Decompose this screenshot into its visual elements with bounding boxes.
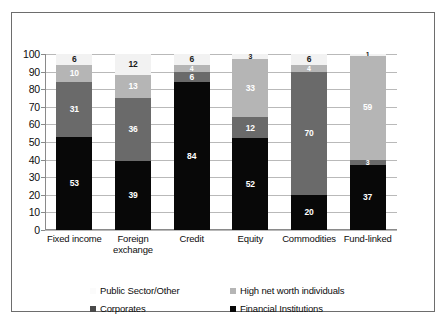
bar-segment[interactable]: 33 [232,59,268,117]
x-axis-labels: Fixed incomeForeign exchangeCreditEquity… [45,234,397,256]
y-axis-tick-label: 30 [29,171,40,183]
bar-segment-value: 6 [189,55,194,64]
bar-segment[interactable]: 84 [174,82,210,230]
y-axis-tick-label: 0 [34,224,40,236]
bar-segment[interactable]: 10 [56,65,92,83]
x-axis-label: Foreign exchange [104,234,163,256]
y-axis-tick-label: 80 [29,83,40,95]
x-axis-label: Credit [162,234,221,256]
gridline [45,230,397,231]
bar-segment[interactable]: 6 [174,54,210,65]
bar-segment-value: 13 [128,82,137,91]
bar-segment-value: 6 [72,55,77,64]
bar-segment[interactable]: 6 [174,72,210,83]
bar-segment-value: 36 [128,125,137,134]
bar-segment[interactable]: 20 [291,195,327,230]
legend-item[interactable]: Corporates [90,303,230,314]
bar-segment-value: 37 [363,193,372,202]
bar-segment[interactable]: 6 [56,54,92,65]
chart-legend: Public Sector/OtherHigh net worth indivi… [90,285,390,314]
bar-segment-value: 53 [70,179,79,188]
bar-segment[interactable]: 12 [232,117,268,138]
bar-segment-value: 31 [70,105,79,114]
y-axis-tick-label: 10 [29,206,40,218]
bar-series-container: 610315312133639646843331252647020159337 [45,54,397,230]
legend-label: High net worth individuals [240,285,344,296]
bar-segment-value: 12 [128,60,137,69]
bar-segment[interactable]: 52 [232,138,268,230]
bar-segment[interactable]: 70 [291,72,327,195]
bar-segment[interactable]: 39 [115,161,151,230]
bar-segment[interactable]: 12 [115,54,151,75]
y-axis-tick-mark [41,230,45,231]
x-axis-label: Fixed income [45,234,104,256]
y-axis-tick-label: 20 [29,189,40,201]
bar-group[interactable]: 12133639 [115,54,151,230]
legend-swatch-icon [230,306,236,312]
bar-segment-value: 6 [307,55,312,64]
bar-group[interactable]: 159337 [350,54,386,230]
bar-segment-value: 39 [128,191,137,200]
legend-swatch-icon [230,288,236,294]
bar-group[interactable]: 647020 [291,54,327,230]
bar-segment-value: 4 [307,65,311,72]
bar-segment[interactable]: 59 [350,56,386,160]
bar-segment[interactable]: 53 [56,137,92,230]
y-axis-tick-label: 90 [29,66,40,78]
plot-area: 0102030405060708090100 61031531213363964… [45,54,397,230]
chart-frame: 0102030405060708090100 61031531213363964… [11,12,435,312]
y-axis-tick-label: 60 [29,118,40,130]
y-axis-tick-label: 100 [23,48,40,60]
bar-segment-value: 52 [246,180,255,189]
bar-segment-value: 10 [70,69,79,78]
bar-group[interactable]: 3331252 [232,54,268,230]
bar-segment-value: 20 [304,208,313,217]
legend-label: Financial Institutions [240,303,323,314]
bar-segment[interactable]: 4 [291,65,327,72]
bar-segment[interactable]: 13 [115,75,151,98]
y-axis-tick-label: 40 [29,154,40,166]
y-axis-tick-label: 50 [29,136,40,148]
bar-group[interactable]: 6103153 [56,54,92,230]
bar-segment[interactable]: 31 [56,82,92,137]
bar-segment-value: 59 [363,103,372,112]
bar-segment[interactable]: 4 [174,65,210,72]
bar-segment[interactable]: 37 [350,165,386,230]
x-axis-label: Fund-linked [338,234,397,256]
legend-label: Public Sector/Other [100,285,180,296]
legend-item[interactable]: Public Sector/Other [90,285,230,296]
bar-segment[interactable]: 36 [115,98,151,161]
x-axis-label: Commodities [280,234,339,256]
legend-swatch-icon [90,306,96,312]
bar-segment-value: 33 [246,84,255,93]
bar-segment-value: 84 [187,152,196,161]
x-axis-label: Equity [221,234,280,256]
bar-group[interactable]: 64684 [174,54,210,230]
bar-segment-value: 70 [304,129,313,138]
bar-segment[interactable]: 6 [291,54,327,65]
bar-segment-value: 6 [189,73,194,82]
y-axis-tick-label: 70 [29,101,40,113]
bar-segment-value: 12 [246,124,255,133]
legend-item[interactable]: High net worth individuals [230,285,390,296]
legend-item[interactable]: Financial Institutions [230,303,390,314]
bar-segment-value: 4 [190,65,194,72]
legend-swatch-icon [90,288,96,294]
legend-label: Corporates [100,303,146,314]
